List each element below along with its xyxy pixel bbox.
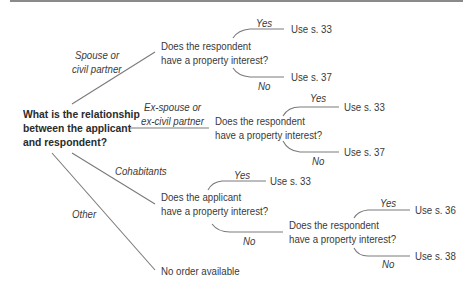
no-label: No [258, 79, 270, 93]
question-ex-spouse: have a property interest? [215, 128, 322, 142]
outcome-s33: Use s. 33 [270, 174, 311, 188]
root-question: What is the relationship between the app… [23, 107, 140, 149]
root-question-line: What is the relationship [23, 107, 140, 121]
question-respondent-cohabitants: Does the respondent [289, 218, 379, 232]
edge-label-spouse: Spouse or [75, 48, 119, 62]
question-cohabitants: have a property interest? [161, 204, 268, 218]
question-ex-spouse: Does the respondent [215, 114, 305, 128]
edge-spouse-no [233, 68, 284, 77]
edge-label-ex-spouse: ex-civil partner [141, 114, 204, 128]
no-label: No [243, 234, 255, 248]
outcome-s33: Use s. 33 [344, 100, 385, 114]
question-spouse: Does the respondent [161, 39, 251, 53]
outcome-s33: Use s. 33 [291, 22, 332, 36]
outcome-s37: Use s. 37 [344, 145, 385, 159]
edge-ex-spouse-no [283, 141, 339, 152]
root-question-line: between the applicant [23, 121, 140, 135]
outcome-s36: Use s. 36 [415, 203, 456, 217]
yes-label: Yes [256, 16, 272, 30]
question-spouse: have a property interest? [161, 53, 268, 67]
no-label: No [312, 154, 324, 168]
yes-label: Yes [234, 168, 250, 182]
edge-label-cohabitants: Cohabitants [115, 164, 167, 178]
edge-spouse-yes [233, 29, 284, 38]
edge-label-other: Other [72, 207, 96, 221]
root-question-line: and respondent? [23, 135, 140, 149]
outcome-no-order: No order available [161, 264, 240, 278]
question-respondent-cohabitants: have a property interest? [289, 232, 396, 246]
edge-respondent-yes [354, 210, 410, 218]
edge-cohabitants [72, 153, 155, 204]
edge-respondent-no [354, 248, 410, 256]
outcome-s37: Use s. 37 [291, 70, 332, 84]
edge-cohabitants-no [212, 224, 283, 232]
yes-label: Yes [310, 91, 326, 105]
edge-label-spouse: civil partner [72, 62, 122, 76]
edge-cohabitants-yes [208, 181, 266, 190]
outcome-s38: Use s. 38 [415, 249, 456, 263]
yes-label: Yes [380, 196, 396, 210]
edge-label-ex-spouse: Ex-spouse or [144, 100, 201, 114]
question-cohabitants: Does the applicant [161, 190, 241, 204]
no-label: No [382, 257, 394, 271]
